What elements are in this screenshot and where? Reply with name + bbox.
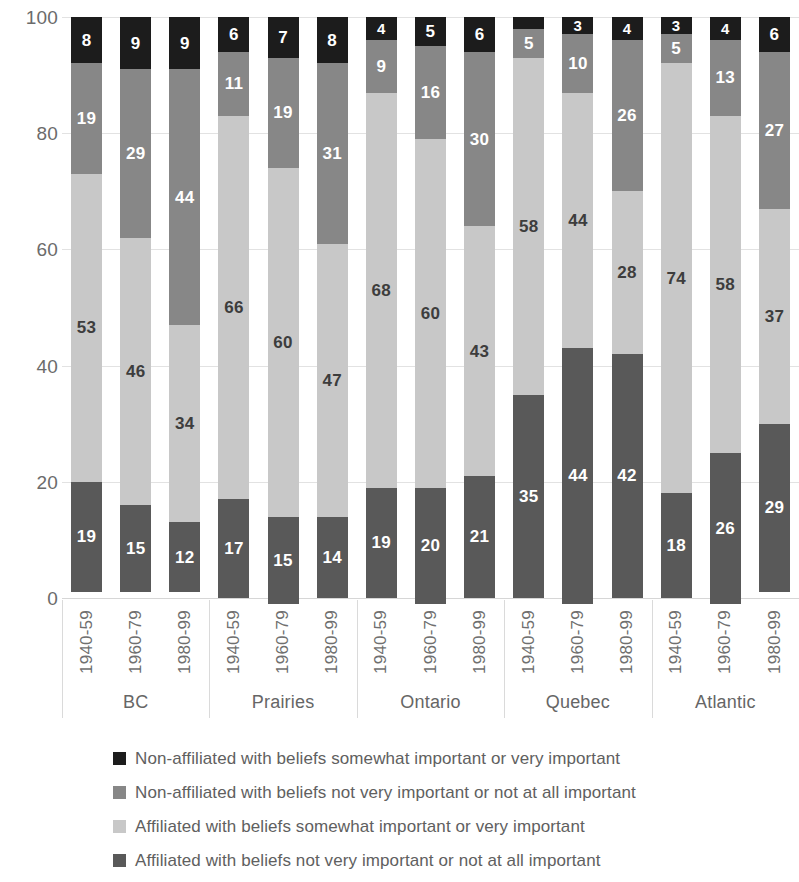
bar-segment[interactable]: 37 [759,209,790,424]
bar-segment[interactable]: 28 [612,191,643,354]
bar-quebec-1940-59[interactable]: 255835 [513,17,544,598]
bar-segment[interactable]: 74 [661,63,692,493]
group-separator [209,600,210,718]
bar-segment[interactable]: 20 [415,488,446,604]
bar-segment[interactable]: 19 [366,488,397,598]
bar-quebec-1960-79[interactable]: 3104444 [562,17,593,598]
bar-value-label: 74 [666,270,686,287]
bar-segment[interactable]: 10 [562,34,593,92]
bar-segment[interactable]: 46 [120,238,151,505]
bar-segment[interactable]: 7 [268,17,299,58]
bar-segment[interactable]: 58 [513,58,544,395]
bar-value-label: 46 [126,363,146,380]
bar-segment[interactable]: 12 [169,522,200,592]
bar-ontario-1940-59[interactable]: 496819 [366,17,397,598]
stacked-bar-chart: 020406080100 819531992946159443412611661… [0,0,799,882]
group-separator [357,600,358,718]
chart-legend: Non-affiliated with beliefs somewhat imp… [0,742,799,882]
bar-segment[interactable]: 4 [366,17,397,40]
bar-segment[interactable]: 15 [120,505,151,592]
bar-value-label: 3 [574,18,583,33]
bar-segment[interactable]: 17 [218,499,249,598]
bar-segment[interactable]: 35 [513,395,544,598]
bar-segment[interactable]: 19 [71,482,102,592]
bar-segment[interactable]: 9 [169,17,200,69]
bar-segment[interactable]: 6 [759,17,790,52]
bar-prairies-1960-79[interactable]: 7196015 [268,17,299,598]
bar-segment[interactable]: 15 [268,517,299,604]
legend-item[interactable]: Non-affiliated with beliefs somewhat imp… [0,742,799,774]
bar-segment[interactable]: 60 [268,168,299,517]
bar-segment[interactable]: 21 [464,476,495,598]
bar-segment[interactable]: 26 [612,40,643,191]
bar-atlantic-1980-99[interactable]: 6273729 [759,17,790,598]
bar-value-label: 4 [623,21,632,36]
bar-segment[interactable]: 3 [661,17,692,34]
y-tick-label: 20 [36,472,58,491]
legend-item[interactable]: Non-affiliated with beliefs not very imp… [0,776,799,808]
group-label-atlantic: Atlantic [652,692,799,713]
bar-segment[interactable]: 27 [759,52,790,209]
bar-segment[interactable]: 58 [710,116,741,453]
group-label-ontario: Ontario [357,692,504,713]
bar-segment[interactable]: 34 [169,325,200,523]
bar-segment[interactable]: 44 [169,69,200,325]
legend-item[interactable]: Affiliated with beliefs not very importa… [0,844,799,876]
bar-segment[interactable]: 42 [612,354,643,598]
bar-segment[interactable]: 60 [415,139,446,488]
cohort-tick-label: 1940-59 [513,602,544,688]
bar-segment[interactable]: 53 [71,174,102,482]
bar-segment[interactable]: 66 [218,116,249,499]
bar-value-label: 35 [519,488,539,505]
bar-prairies-1940-59[interactable]: 6116617 [218,17,249,598]
bar-segment[interactable]: 44 [562,348,593,604]
group-separator [652,600,653,718]
bar-segment[interactable]: 16 [415,46,446,139]
bar-segment[interactable]: 29 [120,69,151,237]
bar-segment[interactable]: 8 [317,17,348,63]
bar-value-label: 19 [273,104,293,121]
bar-segment[interactable]: 29 [759,424,790,592]
y-tick-label: 100 [26,8,58,27]
bar-segment[interactable]: 19 [268,58,299,168]
bar-segment[interactable]: 5 [513,29,544,58]
bar-segment[interactable]: 44 [562,93,593,349]
bar-atlantic-1960-79[interactable]: 4135826 [710,17,741,598]
bar-segment[interactable]: 9 [120,17,151,69]
group-separator [62,600,63,718]
bar-prairies-1980-99[interactable]: 8314714 [317,17,348,598]
bar-segment[interactable]: 6 [218,17,249,52]
bar-segment[interactable]: 3 [562,17,593,34]
bar-segment[interactable]: 14 [317,517,348,598]
legend-item[interactable]: Affiliated with beliefs somewhat importa… [0,810,799,842]
bar-segment[interactable]: 2 [513,17,544,29]
bar-segment[interactable]: 11 [218,52,249,116]
bar-ontario-1960-79[interactable]: 5166020 [415,17,446,598]
bar-segment[interactable]: 31 [317,63,348,243]
bar-value-label: 66 [224,299,244,316]
bar-bc-1960-79[interactable]: 9294615 [120,17,151,598]
bar-ontario-1980-99[interactable]: 6304321 [464,17,495,598]
bar-bc-1980-99[interactable]: 9443412 [169,17,200,598]
bar-bc-1940-59[interactable]: 8195319 [71,17,102,598]
bar-segment[interactable]: 8 [71,17,102,63]
bar-segment[interactable]: 26 [710,453,741,604]
bar-segment[interactable]: 4 [612,17,643,40]
bar-segment[interactable]: 47 [317,244,348,517]
bar-value-label: 44 [568,212,588,229]
bar-quebec-1980-99[interactable]: 4262842 [612,17,643,598]
bar-atlantic-1940-59[interactable]: 357418 [661,17,692,598]
bar-segment[interactable]: 5 [415,17,446,46]
bar-value-label: 15 [126,540,146,557]
bar-segment[interactable]: 5 [661,34,692,63]
bar-segment[interactable]: 9 [366,40,397,92]
bar-segment[interactable]: 68 [366,93,397,488]
bar-segment[interactable]: 18 [661,493,692,598]
bar-segment[interactable]: 13 [710,40,741,116]
bar-segment[interactable]: 4 [710,17,741,40]
bar-value-label: 19 [77,528,97,545]
bar-segment[interactable]: 19 [71,63,102,173]
bar-segment[interactable]: 43 [464,226,495,476]
bar-segment[interactable]: 30 [464,52,495,226]
bar-segment[interactable]: 6 [464,17,495,52]
